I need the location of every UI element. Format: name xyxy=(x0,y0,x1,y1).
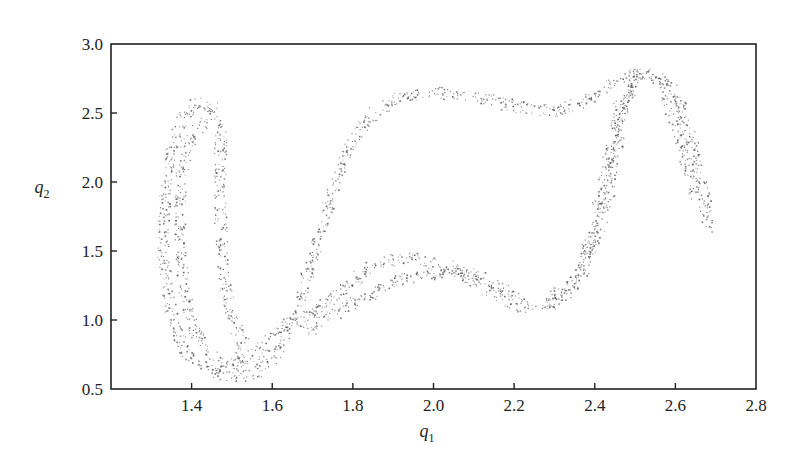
data-points xyxy=(158,69,713,382)
x-axis-label: q1 xyxy=(420,421,435,445)
x-tick-label: 2.2 xyxy=(504,396,525,415)
y-tick-label: 3.0 xyxy=(82,35,103,54)
x-axis-ticks: 1.41.61.82.02.22.42.62.8 xyxy=(181,383,767,415)
y-tick-label: 1.5 xyxy=(82,242,103,261)
y-tick-label: 2.5 xyxy=(82,104,103,123)
y-tick-label: 1.0 xyxy=(82,311,103,330)
y-tick-label: 2.0 xyxy=(82,173,103,192)
x-tick-label: 2.0 xyxy=(423,396,444,415)
x-tick-label: 1.6 xyxy=(262,396,283,415)
x-tick-label: 1.8 xyxy=(342,396,363,415)
x-tick-label: 2.4 xyxy=(584,396,606,415)
y-tick-label: 0.5 xyxy=(82,380,103,399)
x-tick-label: 1.4 xyxy=(181,396,203,415)
x-tick-label: 2.6 xyxy=(665,396,686,415)
y-axis-label: q2 xyxy=(35,177,50,201)
scatter-chart: 1.41.61.82.02.22.42.62.8 0.51.01.52.02.5… xyxy=(0,0,811,469)
x-tick-label: 2.8 xyxy=(745,396,766,415)
plot-frame xyxy=(111,44,756,389)
